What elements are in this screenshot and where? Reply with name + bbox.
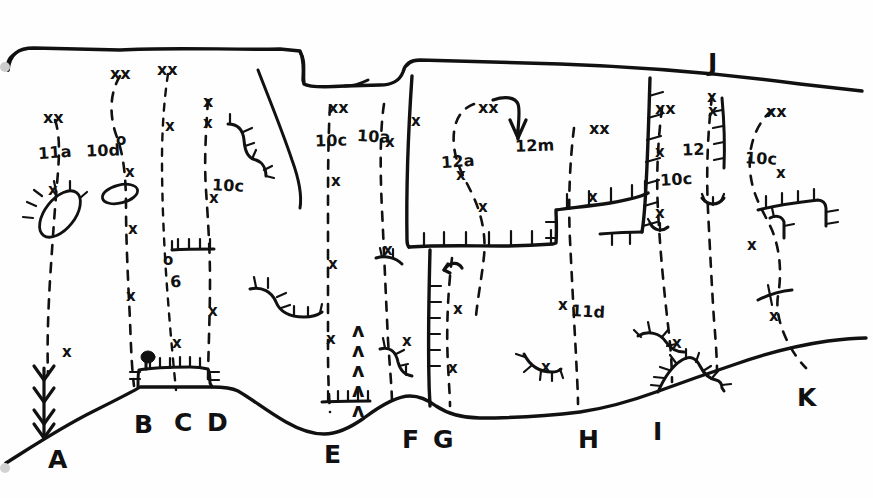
- x-mark: x: [655, 145, 665, 160]
- x-mark: x: [208, 304, 218, 319]
- x-mark: xx: [157, 62, 178, 78]
- x-mark: xx: [328, 100, 349, 116]
- x-mark: o: [163, 253, 173, 268]
- x-mark: x: [328, 257, 338, 272]
- point-label-g: G: [433, 425, 454, 454]
- x-mark: x: [172, 336, 182, 351]
- x-mark: x: [448, 361, 458, 376]
- x-mark: x: [165, 119, 175, 134]
- x-mark: x: [453, 302, 463, 317]
- point-label-i: I: [653, 417, 662, 446]
- x-mark: xx: [589, 121, 610, 137]
- hachured-contact-b: [172, 239, 214, 250]
- unit-label-11a: 11a: [37, 142, 72, 163]
- point-label-d: D: [207, 408, 228, 437]
- caret-mark: ʌ: [352, 401, 364, 420]
- caret-mark: ʌ: [352, 321, 364, 340]
- point-label-c: C: [174, 408, 192, 437]
- x-mark: x: [383, 243, 393, 258]
- point-label-f: F: [402, 425, 419, 454]
- dashed-contacts: [48, 74, 806, 412]
- x-mark: x: [326, 332, 336, 347]
- hachured-contact-K: [758, 285, 792, 305]
- hachured-contact-f: [516, 354, 563, 381]
- corner-smudge-2: [0, 463, 10, 473]
- x-mark: x: [402, 334, 412, 349]
- unit-label-10c: 10c: [659, 169, 693, 190]
- mound-BCD: [130, 351, 219, 387]
- x-mark: x: [672, 336, 682, 351]
- x-mark: x: [776, 166, 786, 181]
- x-mark: x: [769, 309, 779, 324]
- x-mark: x: [747, 238, 757, 253]
- x-mark: xx: [478, 100, 499, 116]
- corner-smudge: [0, 62, 10, 72]
- x-mark: o: [116, 133, 126, 148]
- open-ellipse-symbol: [100, 181, 139, 207]
- x-mark: x: [128, 222, 138, 237]
- caret-mark: ʌ: [352, 341, 364, 360]
- x-mark: x: [385, 135, 395, 150]
- caret-mark: ʌ: [352, 381, 364, 400]
- unit-label-10c: 10c: [315, 130, 348, 150]
- x-mark: x: [203, 116, 213, 131]
- geologic-cross-section-sketch: 11a10d10c610c10a12a12m11d10c1210c ABCDEF…: [0, 0, 873, 498]
- x-mark: x: [708, 104, 718, 119]
- x-mark: x: [655, 206, 665, 221]
- x-mark: xx: [655, 101, 676, 117]
- x-mark: x: [209, 191, 219, 206]
- point-label-j: J: [708, 48, 717, 77]
- x-mark: x: [588, 190, 598, 205]
- point-label-h: H: [578, 425, 599, 454]
- x-mark: xx: [43, 110, 64, 126]
- x-mark: x: [48, 183, 58, 198]
- x-mark: x: [558, 298, 568, 313]
- feather-arrow-A: [34, 366, 54, 438]
- main-fault-J: [600, 78, 663, 245]
- oblique-contact-line: [258, 70, 301, 208]
- unit-label-12: 12: [682, 140, 705, 160]
- x-mark: x: [411, 114, 421, 129]
- point-label-b: B: [134, 410, 153, 439]
- x-mark: x: [478, 200, 488, 215]
- unit-label-10c: 10c: [745, 148, 778, 169]
- x-mark: xx: [766, 104, 787, 120]
- small-arrow-mark: [444, 263, 462, 273]
- unit-label-6: 6: [169, 272, 182, 292]
- x-mark: x: [126, 289, 136, 304]
- point-label-a: A: [48, 445, 67, 474]
- upper-boundary-line: [8, 48, 862, 91]
- x-mark: x: [62, 345, 72, 360]
- unit-label-11d: 11d: [571, 301, 606, 322]
- x-mark: x: [541, 360, 551, 375]
- fault-F: [428, 250, 441, 406]
- x-mark: x: [456, 168, 466, 183]
- point-label-k: K: [797, 383, 816, 412]
- hachured-contact-c: [250, 277, 322, 317]
- x-mark: xx: [110, 66, 131, 82]
- hachured-contact-right: [758, 189, 838, 238]
- x-mark: x: [331, 174, 341, 189]
- x-mark: x: [203, 94, 213, 110]
- unit-label-12m: 12m: [515, 135, 555, 155]
- x-mark: x: [125, 165, 135, 180]
- point-label-e: E: [324, 440, 341, 469]
- caret-mark: ʌ: [352, 361, 364, 380]
- hachured-contact-a: [228, 114, 274, 178]
